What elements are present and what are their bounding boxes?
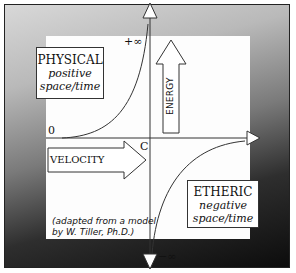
credit-line-2: by W. Tiller, Ph.D.): [52, 227, 156, 238]
credit-text: (adapted from a model by W. Tiller, Ph.D…: [52, 216, 156, 238]
plus-infinity-label: +∞: [124, 35, 142, 48]
physical-subtitle-2: space/time: [37, 80, 103, 93]
arrow-up-icon: [143, 3, 157, 18]
etheric-title: ETHERIC: [188, 185, 258, 199]
velocity-label: VELOCITY: [50, 154, 104, 165]
etheric-subtitle-1: negative: [188, 199, 258, 212]
credit-line-1: (adapted from a model: [52, 216, 156, 227]
origin-label: 0: [48, 124, 55, 137]
arrow-down-icon: [143, 254, 157, 269]
etheric-label-box: ETHERIC negative space/time: [187, 180, 259, 228]
horizontal-axis-arrowhead-icon: [247, 131, 260, 145]
c-label: C: [140, 140, 148, 153]
minus-infinity-label: −∞: [158, 250, 176, 263]
physical-label-box: PHYSICAL positive space/time: [36, 47, 104, 99]
physical-subtitle-1: positive: [37, 67, 103, 80]
energy-label: ENERGY: [165, 77, 175, 115]
etheric-subtitle-2: space/time: [188, 212, 258, 225]
physical-title: PHYSICAL: [37, 53, 103, 67]
